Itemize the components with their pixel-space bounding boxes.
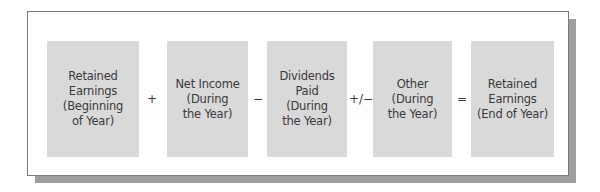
- term-box-retained-earnings-end: Retained Earnings (End of Year): [471, 41, 554, 157]
- term-label: Dividends Paid (During the Year): [279, 69, 334, 129]
- term-box-other: Other (During the Year): [373, 41, 452, 157]
- term-label: Retained Earnings (End of Year): [477, 77, 548, 122]
- operator-plus-minus: +/−: [349, 91, 373, 107]
- operator-minus: −: [253, 91, 263, 107]
- term-box-retained-earnings-beginning: Retained Earnings (Beginning of Year): [47, 41, 139, 157]
- term-box-net-income: Net Income (During the Year): [167, 41, 248, 157]
- term-box-dividends-paid: Dividends Paid (During the Year): [267, 41, 347, 157]
- operator-plus: +: [147, 91, 157, 107]
- term-label: Other (During the Year): [388, 77, 438, 122]
- operator-equals: =: [457, 91, 467, 107]
- diagram-frame: Retained Earnings (Beginning of Year) + …: [27, 11, 569, 176]
- term-label: Net Income (During the Year): [175, 77, 239, 122]
- term-label: Retained Earnings (Beginning of Year): [63, 69, 123, 129]
